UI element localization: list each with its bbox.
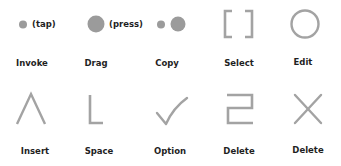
gesture-label-space: Space bbox=[85, 146, 114, 156]
press-dot-icon bbox=[88, 16, 105, 33]
press-note: (press) bbox=[109, 19, 143, 29]
gesture-label-copy: Copy bbox=[155, 58, 179, 68]
gesture-label-delete-scratch: Delete bbox=[223, 146, 254, 156]
gesture-label-option: Option bbox=[154, 146, 186, 156]
circle-icon bbox=[292, 11, 319, 38]
z-scratch-icon bbox=[227, 95, 253, 123]
gesture-label-edit: Edit bbox=[294, 57, 313, 67]
caret-icon bbox=[17, 94, 45, 124]
gesture-reference-sheet: (tap) (press) Invoke Drag Copy Select Ed… bbox=[0, 0, 341, 166]
copy-dots-icon bbox=[157, 17, 186, 32]
l-stroke-icon bbox=[90, 95, 103, 123]
x-cross-icon bbox=[295, 95, 321, 123]
gesture-label-insert: Insert bbox=[21, 146, 49, 156]
checkmark-icon bbox=[157, 98, 187, 124]
gesture-label-select: Select bbox=[224, 58, 254, 68]
gesture-label-invoke: Invoke bbox=[16, 58, 48, 68]
gesture-label-delete-cross: Delete bbox=[292, 145, 323, 155]
square-brackets-icon bbox=[225, 11, 252, 37]
gesture-label-drag: Drag bbox=[84, 58, 107, 68]
tap-dot-icon bbox=[19, 21, 27, 29]
tap-note: (tap) bbox=[32, 19, 56, 29]
